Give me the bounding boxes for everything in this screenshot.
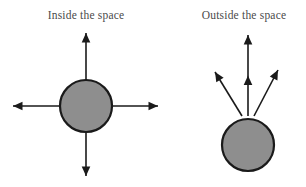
arrow-up-head-mid [244,76,253,86]
arrow-up-head [244,35,253,45]
arrow-down-head [82,167,91,177]
diagram-canvas [0,0,306,187]
arrow-right-head [149,102,159,111]
outside-the-space-circle [222,119,274,171]
panel-outside-the-space [215,35,278,171]
inside-the-space-circle [60,80,112,132]
figure-root: Inside the space Outside the space [0,0,306,187]
arrow-up-left-head [215,72,224,82]
arrow-up-head [82,33,91,43]
arrow-left-head [13,102,23,111]
panel-inside-the-space [13,33,158,176]
